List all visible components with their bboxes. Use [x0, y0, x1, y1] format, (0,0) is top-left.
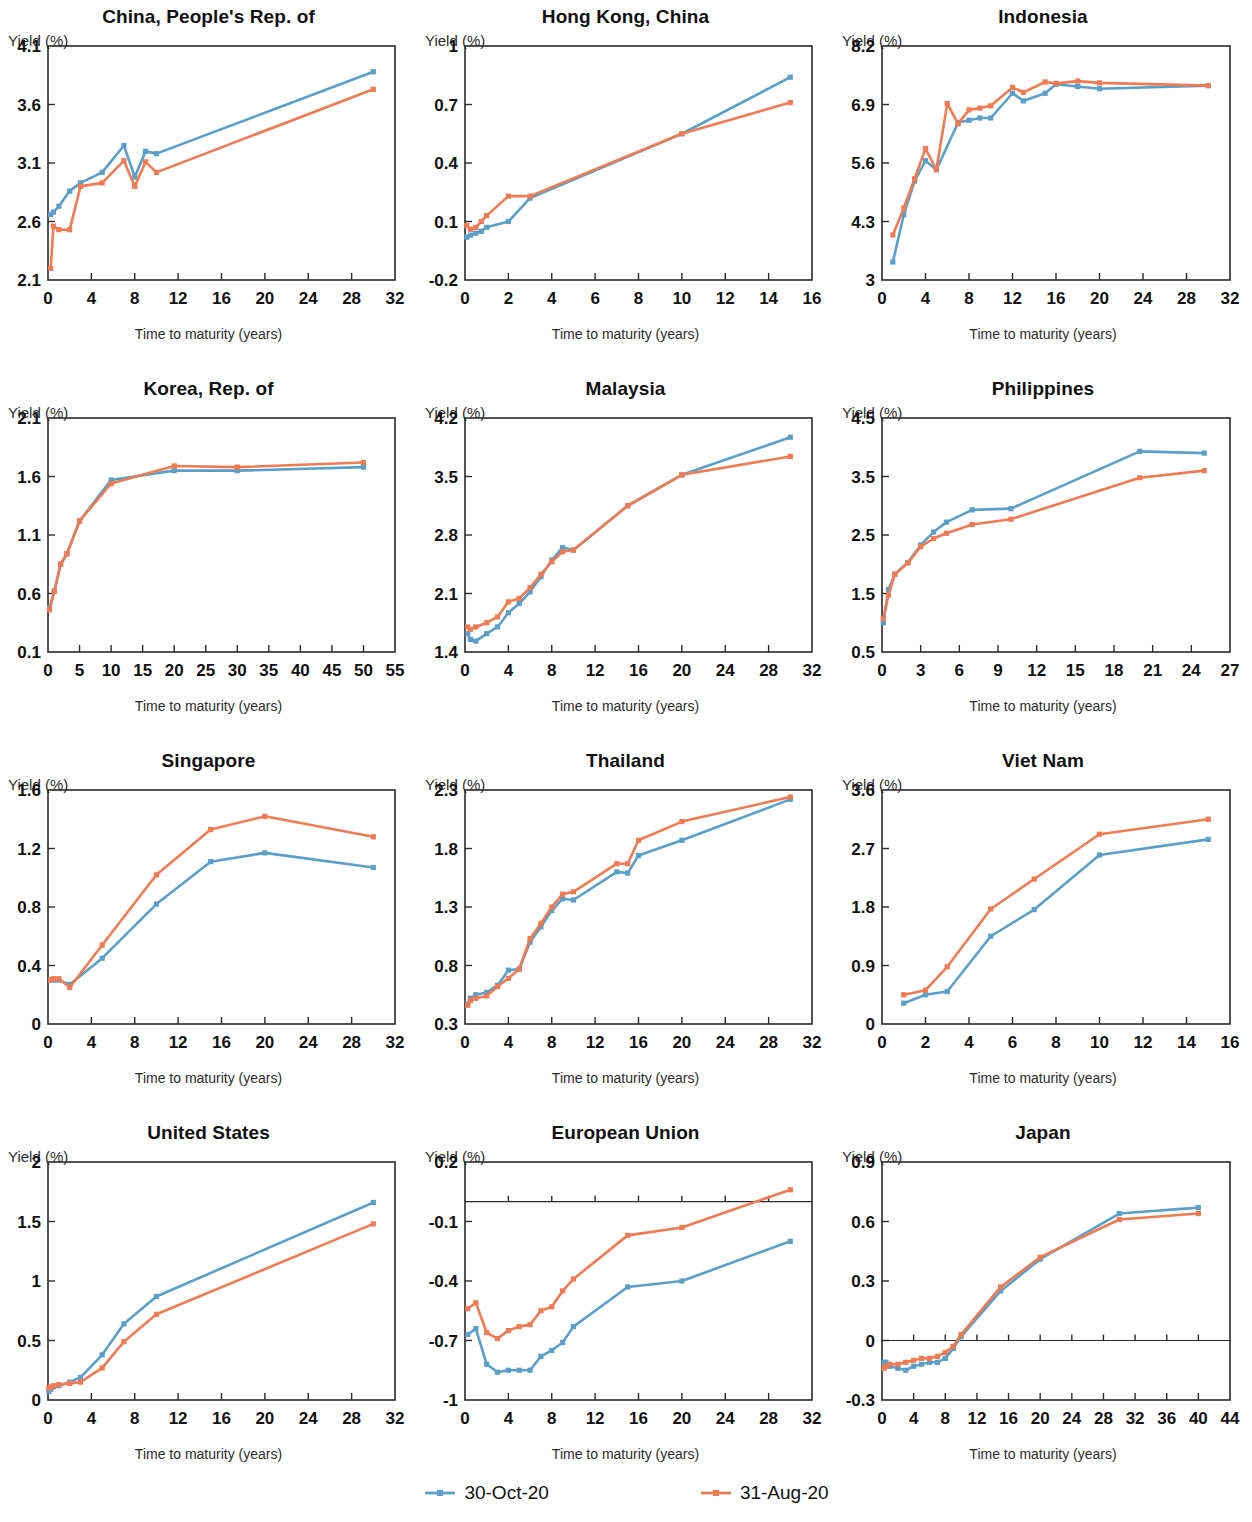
x-axis-tick-label: 15: [133, 661, 152, 680]
data-point-marker: [465, 1332, 470, 1337]
data-point-marker: [901, 1001, 906, 1006]
data-point-marker: [100, 956, 105, 961]
y-axis-tick-label: 1: [32, 1272, 41, 1291]
plot-frame: [48, 46, 395, 280]
series-line: [468, 1241, 791, 1372]
data-point-marker: [988, 103, 993, 108]
data-point-marker: [935, 1360, 940, 1365]
y-axis-tick-label: -0.1: [429, 1213, 458, 1232]
data-point-marker: [560, 892, 565, 897]
data-point-marker: [788, 100, 793, 105]
data-point-marker: [473, 996, 478, 1001]
data-point-marker: [371, 834, 376, 839]
data-point-marker: [484, 1362, 489, 1367]
data-point-marker: [549, 904, 554, 909]
plot-area: 0481216202428320.30.81.31.82.3: [417, 744, 834, 1116]
series-line: [893, 84, 1208, 262]
data-point-marker: [1206, 837, 1211, 842]
data-point-marker: [484, 213, 489, 218]
data-point-marker: [890, 259, 895, 264]
chart-panel: European UnionYield (%)048121620242832-1…: [417, 1116, 834, 1492]
y-axis-tick-label: 4.1: [17, 37, 41, 56]
x-axis-tick-label: 12: [1134, 1033, 1153, 1052]
data-point-marker: [67, 227, 72, 232]
data-point-marker: [951, 1344, 956, 1349]
data-point-marker: [51, 210, 56, 215]
data-point-marker: [1117, 1211, 1122, 1216]
x-axis-tick-label: 25: [196, 661, 215, 680]
y-axis-tick-label: 3.5: [851, 468, 875, 487]
x-axis-tick-label: 32: [803, 1033, 822, 1052]
x-axis-label: Time to maturity (years): [417, 1446, 834, 1462]
y-axis-tick-label: 0.6: [17, 585, 41, 604]
x-axis-tick-label: 4: [964, 1033, 974, 1052]
x-axis-tick-label: 20: [672, 661, 691, 680]
y-axis-tick-label: 1.5: [851, 585, 875, 604]
plot-area: 03691215182124270.51.52.53.54.5: [834, 372, 1252, 744]
series-line: [468, 437, 791, 641]
data-point-marker: [121, 1339, 126, 1344]
data-point-marker: [998, 1284, 1003, 1289]
x-axis-tick-label: 12: [967, 1409, 986, 1428]
x-axis-tick-label: 0: [877, 661, 886, 680]
data-point-marker: [886, 593, 891, 598]
x-axis-label: Time to maturity (years): [834, 1446, 1252, 1462]
data-point-marker: [549, 559, 554, 564]
data-point-marker: [679, 131, 684, 136]
data-point-marker: [517, 601, 522, 606]
plot-area: 04812162024283234.35.66.98.2: [834, 0, 1252, 372]
x-axis-tick-label: 16: [212, 1409, 231, 1428]
data-point-marker: [154, 151, 159, 156]
y-axis-tick-label: 0.5: [17, 1332, 41, 1351]
plot-frame: [882, 790, 1230, 1024]
plot-area: 0481216202428321.42.12.83.54.2: [417, 372, 834, 744]
data-point-marker: [931, 529, 936, 534]
y-axis-tick-label: 5.6: [851, 154, 875, 173]
x-axis-label: Time to maturity (years): [417, 326, 834, 342]
x-axis-tick-label: 0: [460, 661, 469, 680]
x-axis-tick-label: 0: [460, 289, 469, 308]
series-line: [884, 1214, 1198, 1369]
data-point-marker: [560, 1340, 565, 1345]
y-axis-tick-label: 2: [32, 1153, 41, 1172]
data-point-marker: [923, 988, 928, 993]
x-axis-tick-label: 12: [716, 289, 735, 308]
data-point-marker: [506, 599, 511, 604]
y-axis-tick-label: 3: [866, 271, 875, 290]
y-axis-tick-label: 4.5: [851, 409, 875, 428]
data-point-marker: [538, 921, 543, 926]
plot-area: 0246810121416-0.20.10.40.71: [417, 0, 834, 372]
y-axis-tick-label: 1.8: [434, 840, 458, 859]
data-point-marker: [172, 463, 177, 468]
data-point-marker: [361, 465, 366, 470]
data-point-marker: [132, 184, 137, 189]
data-point-marker: [121, 143, 126, 148]
x-axis-tick-label: 32: [803, 661, 822, 680]
data-point-marker: [943, 1356, 948, 1361]
data-point-marker: [571, 547, 576, 552]
data-point-marker: [905, 560, 910, 565]
data-point-marker: [517, 1368, 522, 1373]
data-point-marker: [262, 814, 267, 819]
x-axis-tick-label: 8: [634, 289, 643, 308]
data-point-marker: [625, 870, 630, 875]
data-point-marker: [977, 106, 982, 111]
data-point-marker: [154, 901, 159, 906]
data-point-marker: [944, 531, 949, 536]
data-point-marker: [371, 1221, 376, 1226]
data-point-marker: [527, 1322, 532, 1327]
data-point-marker: [143, 159, 148, 164]
data-point-marker: [56, 976, 61, 981]
data-point-marker: [1075, 84, 1080, 89]
data-point-marker: [1038, 1255, 1043, 1260]
data-point-marker: [51, 976, 56, 981]
data-point-marker: [371, 69, 376, 74]
x-axis-tick-label: 44: [1221, 1409, 1240, 1428]
x-axis-tick-label: 12: [1003, 289, 1022, 308]
data-point-marker: [1196, 1205, 1201, 1210]
x-axis-tick-label: 20: [165, 661, 184, 680]
x-axis-tick-label: 16: [803, 289, 822, 308]
data-point-marker: [927, 1356, 932, 1361]
y-axis-tick-label: 4.3: [851, 213, 875, 232]
x-axis-tick-label: 16: [212, 289, 231, 308]
